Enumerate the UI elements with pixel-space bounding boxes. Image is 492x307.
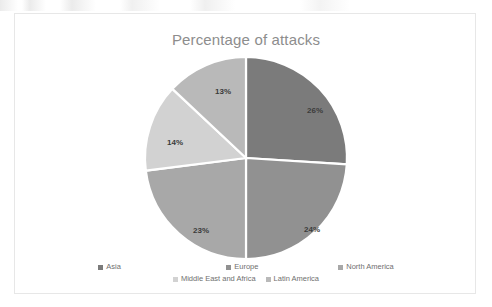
pie-slice-label-europe: 24% (304, 225, 320, 234)
pie-slice-label-latin-america: 13% (215, 87, 231, 96)
pie-svg (15, 14, 477, 295)
legend-label-north-america: North America (346, 261, 394, 273)
legend-row-secondary: Middle East and Africa Latin America (15, 273, 477, 285)
pie-slice-north-america[interactable] (146, 158, 246, 259)
chart-frame: Percentage of attacks 26%24%23%14%13% As… (14, 13, 476, 294)
legend-swatch-europe (226, 265, 231, 270)
pie-slice-label-asia: 26% (307, 106, 323, 115)
chart-legend: Asia Europe North America Middle East an… (15, 261, 477, 285)
scan-artifact (0, 0, 492, 11)
legend-swatch-latin-america (266, 277, 271, 282)
legend-label-europe: Europe (234, 261, 258, 273)
legend-label-asia: Asia (106, 261, 121, 273)
legend-row-primary: Asia Europe North America (15, 261, 477, 273)
legend-label-middle-east-and-africa: Middle East and Africa (181, 273, 256, 285)
legend-label-latin-america: Latin America (274, 273, 319, 285)
legend-item-asia[interactable]: Asia (98, 261, 226, 273)
legend-swatch-north-america (338, 265, 343, 270)
legend-item-latin-america[interactable]: Latin America (266, 273, 319, 285)
legend-item-middle-east-and-africa[interactable]: Middle East and Africa (173, 273, 256, 285)
pie-slice-label-middle-east-and-africa: 14% (167, 138, 183, 147)
pie-slice-label-north-america: 23% (193, 226, 209, 235)
legend-swatch-asia (98, 265, 103, 270)
legend-item-north-america[interactable]: North America (338, 261, 394, 273)
pie-slice-europe[interactable] (246, 158, 347, 259)
legend-item-europe[interactable]: Europe (226, 261, 338, 273)
legend-swatch-middle-east-and-africa (173, 277, 178, 282)
pie-chart: 26%24%23%14%13% (15, 14, 477, 295)
pie-slice-asia[interactable] (246, 57, 347, 164)
